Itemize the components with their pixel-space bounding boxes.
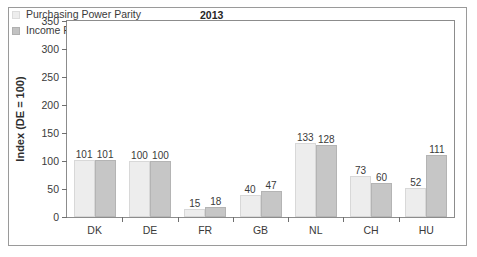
bar: 40: [240, 195, 261, 217]
bar-value-label: 128: [318, 134, 335, 145]
x-tick-label: DE: [143, 224, 158, 236]
bar: 60: [371, 183, 392, 217]
x-tick-mark: [233, 217, 234, 222]
x-tick-label: DK: [87, 224, 102, 236]
bar-value-label: 100: [152, 150, 169, 161]
y-tick-label: 200: [41, 99, 59, 111]
x-tick-mark: [122, 217, 123, 222]
bar: 52: [405, 188, 426, 217]
x-tick-mark: [178, 217, 179, 222]
legend-swatch-icon-ppp: [12, 11, 20, 19]
bar-value-label: 18: [210, 196, 221, 207]
bar-value-label: 111: [429, 144, 444, 155]
y-tick-mark: [62, 161, 67, 162]
y-tick-label: 300: [41, 43, 59, 55]
y-tick-label: 50: [47, 183, 59, 195]
x-tick-mark: [288, 217, 289, 222]
x-tick-label: HU: [419, 224, 434, 236]
bar-value-label: 133: [297, 132, 314, 143]
bar: 47: [261, 191, 282, 217]
chart-figure: Index (DE = 100) Purchasing Power Parity…: [0, 0, 477, 257]
x-tick-label: NL: [309, 224, 322, 236]
y-tick-label: 250: [41, 71, 59, 83]
x-tick-label: CH: [363, 224, 378, 236]
bar: 100: [150, 161, 171, 217]
y-tick-mark: [62, 217, 67, 218]
bar-value-label: 101: [76, 149, 93, 160]
bar-value-label: 100: [131, 150, 148, 161]
x-tick-mark: [399, 217, 400, 222]
y-tick-mark: [62, 189, 67, 190]
y-axis-title: Index (DE = 100): [12, 20, 28, 218]
bar: 100: [129, 161, 150, 217]
y-tick-label: 100: [41, 155, 59, 167]
y-tick-mark: [62, 21, 67, 22]
x-tick-label: FR: [198, 224, 212, 236]
bar: 133: [295, 143, 316, 217]
legend-swatch-icon-income: [12, 27, 20, 35]
plot-area: 050100150200250300350 DKDEFRGBNLCHHU 101…: [67, 21, 454, 217]
bar-value-label: 73: [355, 165, 366, 176]
y-tick-label: 150: [41, 127, 59, 139]
y-tick-label: 350: [41, 15, 59, 27]
y-tick-mark: [62, 105, 67, 106]
x-tick-mark: [343, 217, 344, 222]
y-tick-mark: [62, 77, 67, 78]
y-tick-mark: [62, 49, 67, 50]
bar: 101: [74, 160, 95, 217]
bar-value-label: 47: [265, 180, 276, 191]
bar: 73: [350, 176, 371, 217]
y-tick-label: 0: [53, 211, 59, 223]
bar-value-label: 15: [189, 198, 200, 209]
bar: 128: [316, 145, 337, 217]
y-tick-mark: [62, 133, 67, 134]
bar: 18: [205, 207, 226, 217]
bar-value-label: 40: [244, 184, 255, 195]
bar-value-label: 52: [410, 177, 421, 188]
bar: 101: [95, 160, 116, 217]
bar: 15: [184, 209, 205, 217]
bar: 111: [426, 155, 447, 217]
bar-value-label: 101: [97, 149, 114, 160]
bar-value-label: 60: [376, 172, 387, 183]
y-axis-title-text: Index (DE = 100): [14, 76, 26, 161]
x-tick-label: GB: [253, 224, 268, 236]
